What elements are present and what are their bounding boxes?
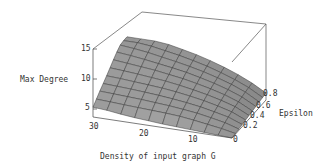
x-axis-label: Density of input graph G bbox=[100, 153, 216, 161]
z-tick-5: 5 bbox=[85, 104, 90, 112]
y-tick-0: 0 bbox=[233, 136, 238, 144]
y-tick-0.8: 0.8 bbox=[263, 90, 277, 98]
x-tick-20: 20 bbox=[139, 130, 149, 138]
surface-mesh bbox=[93, 37, 266, 138]
x-tick-30: 30 bbox=[89, 123, 99, 131]
z-tick-15: 15 bbox=[81, 45, 91, 53]
y-tick-0.2: 0.2 bbox=[243, 122, 257, 130]
y-axis-label: Epsilon bbox=[279, 110, 313, 118]
y-tick-0.6: 0.6 bbox=[256, 102, 270, 110]
y-tick-0.4: 0.4 bbox=[250, 112, 264, 120]
x-tick-10: 10 bbox=[188, 136, 198, 144]
z-tick-10: 10 bbox=[81, 75, 91, 83]
z-axis-label: Max Degree bbox=[20, 76, 68, 84]
